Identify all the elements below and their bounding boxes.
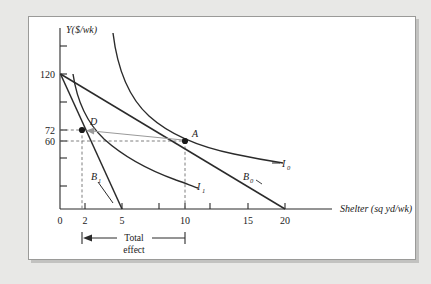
curve-label-b1-text: B [91, 171, 97, 182]
figure-root: Y($/wk) Shelter (sq yd/wk) 120 72 60 0 2… [0, 0, 431, 284]
curve-label-b0: B 0 [243, 171, 254, 184]
curve-label-i1-text: I [196, 181, 201, 192]
x-tick-label-2: 2 [83, 215, 88, 226]
x-tick-label-10: 10 [180, 215, 190, 226]
x-tick-label-15: 15 [243, 215, 253, 226]
y-tick-label-72: 72 [45, 125, 55, 136]
curve-label-b0-text: B [243, 171, 249, 182]
budget-line-b1 [61, 74, 123, 209]
total-effect-label-line2: effect [123, 245, 145, 255]
y-tick-label-120: 120 [40, 69, 55, 80]
curve-label-b0-sub: 0 [250, 177, 254, 184]
curve-label-i1: I 1 [196, 181, 205, 194]
x-tick-label-0: 0 [58, 215, 63, 226]
leader-line-b0 [256, 180, 262, 184]
x-tick-label-20: 20 [280, 215, 290, 226]
total-effect-arrowhead [83, 235, 92, 242]
x-axis-label: Shelter (sq yd/wk) [340, 203, 413, 215]
y-axis-label: Y($/wk) [66, 24, 98, 36]
indifference-curve-chart: Y($/wk) Shelter (sq yd/wk) 120 72 60 0 2… [0, 0, 431, 284]
point-label-a: A [191, 128, 199, 139]
curve-label-i1-sub: 1 [202, 187, 205, 194]
curve-label-i0-text: I [281, 158, 286, 169]
curve-label-i0: I 0 [281, 158, 291, 171]
total-effect-annotation: Total effect [82, 232, 185, 255]
point-label-d: D [89, 116, 98, 127]
guide-lines [60, 130, 185, 209]
indifference-curve-i0 [113, 33, 283, 163]
y-tick-label-60: 60 [45, 136, 55, 147]
y-tick-marks [60, 46, 67, 186]
point-a-marker [182, 138, 188, 144]
curve-label-b1-sub: 1 [98, 177, 101, 184]
total-effect-label-line1: Total [124, 233, 144, 243]
budget-line-b0 [61, 74, 286, 209]
point-d-marker [79, 127, 85, 133]
curve-label-b1: B 1 [91, 171, 101, 184]
x-tick-label-5: 5 [120, 215, 125, 226]
curve-label-i0-sub: 0 [287, 164, 291, 171]
